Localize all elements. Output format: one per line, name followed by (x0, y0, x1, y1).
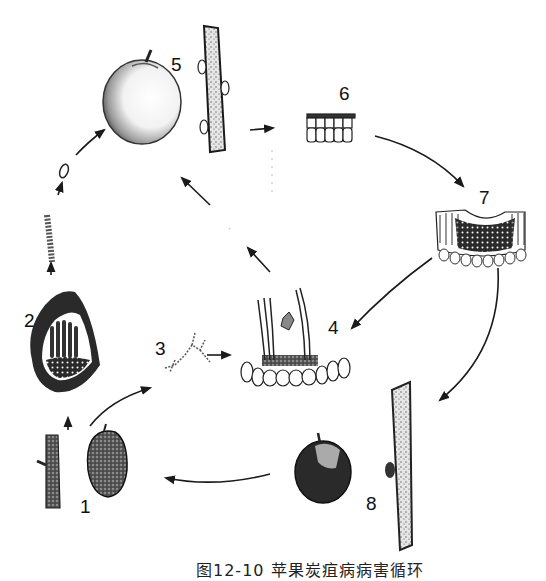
stage-label-4: 4 (328, 318, 339, 337)
dotted-guides (226, 150, 272, 234)
spore-chain (47, 163, 70, 262)
figure-caption: 图12-10 苹果炭疽病病害循环 (196, 557, 424, 581)
stage-5-healthy-apple (103, 50, 181, 144)
stage-label-2: 2 (24, 311, 35, 330)
stage-3-germinating-conidia (165, 333, 210, 372)
stage-1-mummified-fruit (88, 424, 128, 497)
cycle-arrows (51, 128, 498, 482)
stage-label-1: 1 (80, 497, 91, 516)
stage-label-6: 6 (339, 84, 350, 103)
stage-label-3: 3 (155, 339, 166, 358)
stage-2-acervulus (30, 291, 100, 392)
stage-7-diseased-tissue (436, 210, 526, 267)
stage-label-7: 7 (479, 188, 490, 207)
stage-1-infected-twig (37, 435, 60, 508)
stage-label-8: 8 (366, 494, 377, 513)
stage-label-5: 5 (171, 55, 182, 74)
stage-6-cell-layer (307, 114, 355, 142)
stage-8-cankered-twig (385, 382, 412, 550)
stage-5-twig (198, 26, 229, 152)
stage-8-rotting-apple (295, 433, 351, 503)
